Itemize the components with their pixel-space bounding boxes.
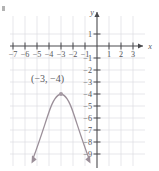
- coordinate-plane-svg: −7 −6 −5 −4 −3 −2 −1 1 2 3 1 −1 −2 −3 −4…: [0, 0, 159, 171]
- y-tick-label: 1: [88, 30, 92, 39]
- x-tick-label: 2: [119, 50, 123, 59]
- y-tick-label: −1: [83, 54, 92, 63]
- y-tick-label: −3: [83, 78, 92, 87]
- x-axis-arrow: [138, 43, 143, 48]
- x-tick-label: −7: [9, 50, 18, 59]
- x-tick-label: 1: [107, 50, 111, 59]
- x-tick-label: −3: [57, 50, 66, 59]
- grid-lines: [10, 16, 145, 166]
- x-tick-label: −2: [69, 50, 78, 59]
- vertex-point-marker: [59, 92, 63, 96]
- y-axis-label: y: [89, 8, 94, 17]
- x-tick-label: −5: [33, 50, 42, 59]
- corner-mark: [2, 6, 5, 11]
- y-axis-arrow: [94, 12, 99, 17]
- y-tick-label: −4: [83, 90, 92, 99]
- vertex-coordinate-label: (−3, −4): [31, 73, 64, 85]
- y-tick-label: −6: [83, 114, 92, 123]
- x-tick-label: 3: [131, 50, 135, 59]
- x-axis-label: x: [147, 42, 152, 51]
- parabola-figure: −7 −6 −5 −4 −3 −2 −1 1 2 3 1 −1 −2 −3 −4…: [0, 0, 159, 171]
- axes: [10, 12, 143, 168]
- y-tick-label: −2: [83, 66, 92, 75]
- y-tick-label: −5: [83, 102, 92, 111]
- y-tick-label: −7: [83, 126, 92, 135]
- x-tick-label: −4: [45, 50, 54, 59]
- x-tick-label: −6: [21, 50, 30, 59]
